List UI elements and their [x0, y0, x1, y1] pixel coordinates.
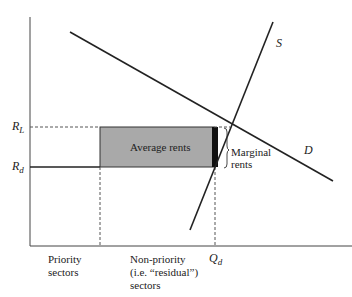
rents-label: rents [231, 158, 252, 170]
demand-label: D [304, 144, 313, 156]
rd-label: Rd [12, 160, 24, 176]
nonpriority-label-1: Non-priority [130, 253, 186, 265]
average-rents-label: Average rents [130, 141, 191, 153]
rl-label: RL [12, 120, 24, 136]
priority-label-1: Priority [48, 253, 82, 265]
supply-curve [190, 22, 273, 230]
qd-label: Qd [209, 252, 222, 268]
supply-label: S [276, 37, 282, 49]
rents-diagram: RL Rd S D Average rents Marginal rents P… [0, 0, 352, 297]
priority-label-2: sectors [48, 266, 79, 278]
nonpriority-label-3: sectors [130, 279, 161, 291]
nonpriority-label-2: (i.e. “residual”) [130, 266, 198, 278]
marginal-label: Marginal [231, 146, 271, 158]
